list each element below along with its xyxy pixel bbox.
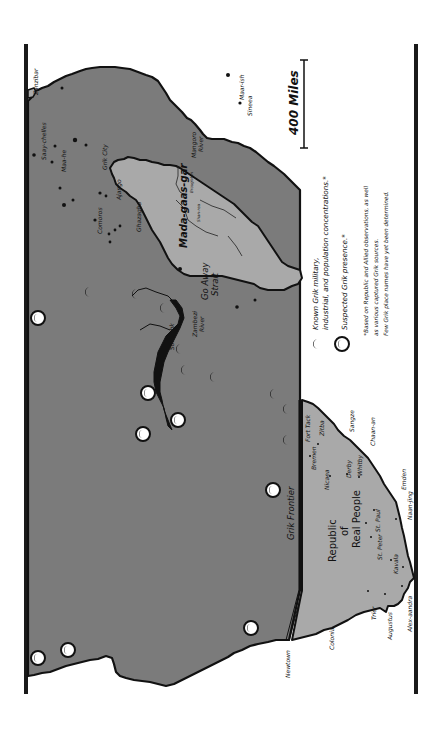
legend-known-line1: Known Grik military, [311, 257, 320, 330]
label-maa-he: Maa-he [60, 150, 67, 172]
grik-territory [28, 67, 300, 686]
legend-known-line2: industrial, and population concentration… [321, 176, 330, 330]
label-alex-aandra: Alex-aandra [406, 595, 413, 633]
label-saay-chelles: Saay-chelles [40, 122, 48, 160]
label-broughton: Broughton [189, 172, 194, 193]
label-ajango: Ajango [115, 179, 123, 201]
label-sofesshk: Sofesshk [168, 323, 175, 350]
label-go-away-strait-2: Strait [210, 272, 220, 296]
label-bremen: Bremen [310, 446, 317, 470]
label-augustus: Augustus [386, 612, 394, 641]
label-st-peter: St. Peter [376, 534, 383, 560]
label-zambezi-river-2: River [198, 316, 205, 332]
grik-territory-map: Zanzibar Saay-chelles Maa-he Grik City C… [0, 0, 442, 730]
label-trier: Trier [370, 606, 377, 620]
label-st-paul: St. Paul [374, 509, 381, 532]
label-chaan-an: Chaan-an [369, 417, 376, 446]
label-colonia: Colonia [328, 627, 335, 650]
legend-suspected: Suspected Grik presence.* [340, 234, 349, 330]
label-newtown: Newtown [284, 650, 291, 678]
label-republic-line1: Republic [327, 519, 338, 562]
label-shan-rea: Shan-rea [196, 203, 201, 222]
label-madagascar: Mada-gaas-gar [178, 163, 189, 248]
legend-note-line2: as various captured Grik sources. [373, 239, 380, 336]
legend-note-line1: *Based on Republic and Allied observatio… [363, 186, 370, 336]
label-derby: Derby [345, 459, 353, 478]
label-ghazagha: Ghazagha [135, 201, 143, 232]
label-sineea: Sineea [246, 95, 253, 116]
map-frame-right [414, 44, 418, 694]
label-comoros: Comoros [96, 207, 103, 234]
label-mangoro-river-2: River [197, 136, 204, 152]
label-zanzibar: Zanzibar [32, 68, 39, 96]
label-maar-ish: Maar-ish [238, 74, 245, 100]
legend-suspected-icon [335, 337, 349, 351]
label-fort-tack: Fort Tack [304, 414, 311, 442]
label-sangze: Sangze [348, 410, 356, 432]
scale-label: 400 Miles [287, 70, 301, 136]
label-zitba: Zitba [318, 420, 325, 437]
legend-note-line3: Few Grik place names have yet been deter… [383, 191, 390, 336]
scale-bar: 400 Miles [287, 60, 308, 148]
label-naan-jing: Naan-jing [406, 491, 414, 520]
label-grik-city: Grik City [101, 144, 109, 170]
label-kavala: Kavala [392, 554, 399, 574]
label-grik-frontier: Grik Frontier [286, 486, 296, 540]
label-whitby: Whitby [356, 454, 364, 476]
label-emden: Emden [400, 469, 407, 490]
legend-known-icon [313, 339, 318, 349]
label-republic-line2: of [339, 526, 350, 536]
label-nicaea: Nicaea [323, 469, 330, 490]
legend: Known Grik military, industrial, and pop… [311, 176, 390, 351]
label-republic-line3: Real People [351, 490, 362, 548]
label-zambezi-river-1: Zambezi [191, 311, 198, 338]
label-go-away-strait-1: Go Away [200, 262, 210, 300]
